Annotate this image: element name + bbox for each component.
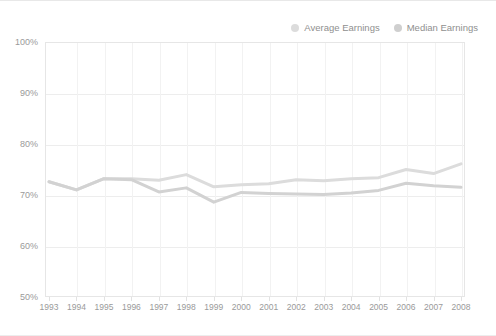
x-tick-mark-1996 xyxy=(131,297,132,301)
legend-dot-median-icon xyxy=(394,24,402,32)
x-tick-label-2005: 2005 xyxy=(369,303,388,312)
x-tick-label-2006: 2006 xyxy=(397,303,416,312)
series-lines xyxy=(45,42,465,297)
chart-legend: Average Earnings Median Earnings xyxy=(291,21,478,35)
y-tick-label-80: 80% xyxy=(0,140,38,149)
legend-label-average-earnings: Average Earnings xyxy=(304,23,379,33)
x-tick-label-1999: 1999 xyxy=(204,303,223,312)
x-tick-label-2000: 2000 xyxy=(232,303,251,312)
x-tick-label-2002: 2002 xyxy=(287,303,306,312)
x-tick-mark-2000 xyxy=(241,297,242,301)
x-tick-mark-2005 xyxy=(379,297,380,301)
x-tick-mark-1993 xyxy=(49,297,50,301)
x-tick-mark-1997 xyxy=(159,297,160,301)
x-tick-label-2007: 2007 xyxy=(424,303,443,312)
line-median-earnings xyxy=(49,179,461,202)
x-tick-label-1996: 1996 xyxy=(122,303,141,312)
x-tick-label-1997: 1997 xyxy=(149,303,168,312)
x-tick-label-2008: 2008 xyxy=(452,303,471,312)
chart-container: Average Earnings Median Earnings 100%90%… xyxy=(0,0,496,336)
legend-dot-average-icon xyxy=(291,24,299,32)
y-tick-label-90: 90% xyxy=(0,89,38,98)
x-tick-label-2003: 2003 xyxy=(314,303,333,312)
x-tick-label-2004: 2004 xyxy=(342,303,361,312)
x-tick-mark-2002 xyxy=(296,297,297,301)
x-tick-label-1993: 1993 xyxy=(40,303,59,312)
x-tick-label-1998: 1998 xyxy=(177,303,196,312)
x-tick-mark-2003 xyxy=(324,297,325,301)
y-tick-label-50: 50% xyxy=(0,293,38,302)
legend-item-average-earnings[interactable]: Average Earnings xyxy=(291,23,379,33)
legend-label-median-earnings: Median Earnings xyxy=(407,23,478,33)
legend-item-median-earnings[interactable]: Median Earnings xyxy=(394,23,478,33)
x-tick-label-1995: 1995 xyxy=(94,303,113,312)
y-tick-label-60: 60% xyxy=(0,242,38,251)
x-tick-mark-2004 xyxy=(351,297,352,301)
x-tick-label-1994: 1994 xyxy=(67,303,86,312)
x-tick-mark-2007 xyxy=(434,297,435,301)
x-tick-mark-2006 xyxy=(406,297,407,301)
y-tick-label-70: 70% xyxy=(0,191,38,200)
x-tick-mark-2008 xyxy=(461,297,462,301)
x-tick-label-2001: 2001 xyxy=(259,303,278,312)
x-tick-mark-1999 xyxy=(214,297,215,301)
x-tick-mark-1994 xyxy=(76,297,77,301)
x-tick-mark-1998 xyxy=(186,297,187,301)
x-tick-mark-2001 xyxy=(269,297,270,301)
y-tick-label-100: 100% xyxy=(0,38,38,47)
x-tick-mark-1995 xyxy=(104,297,105,301)
